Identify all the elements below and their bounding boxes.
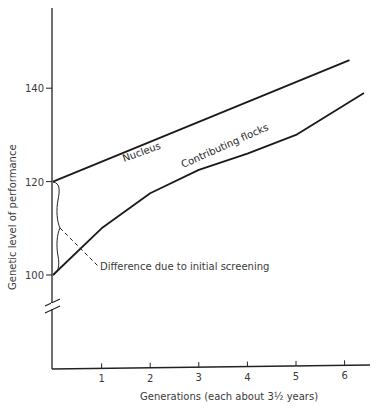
- y-tick-label: 120: [25, 177, 44, 188]
- x-tick-label: 5: [293, 371, 299, 382]
- series-lines: [53, 60, 364, 275]
- annotation-text: Difference due to initial screening: [100, 261, 269, 272]
- y-ticks: 100120140: [25, 83, 52, 281]
- x-tick-label: 4: [244, 372, 250, 383]
- y-tick-label: 100: [25, 270, 44, 281]
- series-label-contributing-flocks: Contributing flocks: [179, 121, 270, 169]
- axes: [45, 8, 370, 369]
- x-axis: [52, 365, 370, 369]
- series-line-contributing-flocks: [53, 93, 364, 275]
- series-line-nucleus: [53, 60, 350, 181]
- x-axis-label: Generations (each about 3½ years): [140, 391, 318, 402]
- difference-brace: [53, 182, 98, 275]
- x-tick-label: 2: [147, 373, 153, 384]
- y-tick-label: 140: [25, 83, 44, 94]
- y-axis-label: Genetic level of performance: [7, 144, 18, 290]
- x-ticks: 123456: [98, 360, 347, 384]
- series-label-nucleus: Nucleus: [121, 140, 162, 164]
- x-tick-label: 6: [341, 370, 347, 381]
- x-tick-label: 3: [196, 372, 202, 383]
- annotation-leader: [60, 228, 98, 266]
- line-chart: 100120140 123456 Difference due to initi…: [0, 0, 379, 413]
- x-tick-label: 1: [98, 373, 104, 384]
